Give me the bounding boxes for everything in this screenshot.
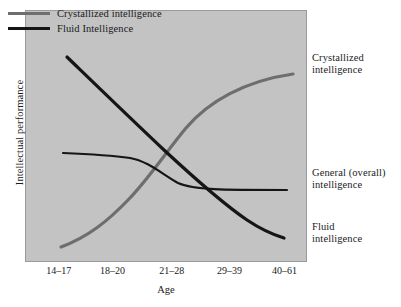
x-tick-label-1: 14–17 — [46, 265, 71, 276]
plot-area — [25, 10, 307, 262]
legend-swatch-crystallized-icon — [8, 12, 50, 15]
legend-swatch-fluid-icon — [8, 27, 50, 30]
x-axis-title: Age — [25, 284, 307, 295]
x-tick-label-2: 18–20 — [100, 265, 125, 276]
series-annotation-fluid-line1: Fluid — [312, 221, 362, 233]
legend-label-fluid: Fluid Intelligence — [57, 23, 133, 34]
y-axis-title: Intellectual performance — [14, 48, 25, 218]
x-axis-tick-labels: 14–17 18–20 21–28 29–39 40–61 — [25, 265, 307, 279]
series-annotation-crystallized-line2: intelligence — [312, 64, 364, 76]
series-annotation-crystallized-line1: Crystallized — [312, 52, 364, 64]
series-annotation-general-line1: General (overall) — [312, 167, 386, 179]
series-annotation-crystallized: Crystallized intelligence — [312, 52, 364, 76]
x-tick-label-3: 21–28 — [159, 265, 184, 276]
legend-item-crystallized: Crystallized intelligence — [8, 6, 208, 21]
intelligence-age-figure: Crystallized intelligence Fluid Intellig… — [0, 0, 401, 307]
x-tick-label-5: 40–61 — [272, 265, 297, 276]
series-annotation-fluid-line2: intelligence — [312, 233, 362, 245]
x-tick-label-4: 29–39 — [217, 265, 242, 276]
series-annotation-general-line2: intelligence — [312, 179, 386, 191]
plot-svg — [26, 11, 308, 263]
series-annotation-fluid: Fluid intelligence — [312, 221, 362, 245]
legend-item-fluid: Fluid Intelligence — [8, 21, 208, 36]
series-annotation-general: General (overall) intelligence — [312, 167, 386, 191]
legend-label-crystallized: Crystallized intelligence — [57, 8, 162, 19]
legend: Crystallized intelligence Fluid Intellig… — [8, 6, 208, 36]
